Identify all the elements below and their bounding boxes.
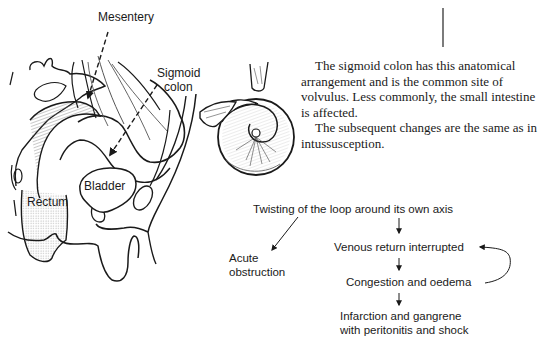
sigmoid-pointer xyxy=(110,85,157,155)
label-colon: colon xyxy=(164,80,193,94)
flow-infarction: Infarction and gangrene xyxy=(340,309,461,323)
description-text: The sigmoid colon has this anatomical ar… xyxy=(301,58,537,151)
label-bladder: Bladder xyxy=(84,179,125,193)
flow-congestion: Congestion and oedema xyxy=(346,275,471,289)
description-paragraph-2: The subsequent changes are the same as i… xyxy=(301,120,537,151)
label-sigmoid: Sigmoid xyxy=(157,66,200,80)
flow-venous: Venous return interrupted xyxy=(334,240,464,254)
label-rectum: Rectum xyxy=(27,195,68,209)
flow-acute: Acute xyxy=(229,251,258,265)
feedback-loop-arrow xyxy=(480,247,510,283)
flow-root: Twisting of the loop around its own axis xyxy=(253,202,453,216)
flow-peritonitis: with peritonitis and shock xyxy=(340,323,468,337)
flow-obstruction: obstruction xyxy=(229,265,285,279)
flowchart-arrows xyxy=(272,217,510,305)
arrow-root-to-acute xyxy=(272,217,298,250)
label-mesentery: Mesentery xyxy=(98,10,154,24)
volvulus-loop-illustration xyxy=(200,62,294,175)
description-paragraph-1: The sigmoid colon has this anatomical ar… xyxy=(301,58,537,120)
